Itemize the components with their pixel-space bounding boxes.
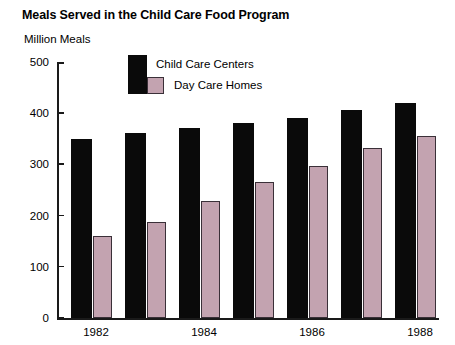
x-tick-label-1988: 1988 (407, 326, 433, 338)
legend-swatch-day-care-homes (147, 77, 164, 94)
bar-day-care-homes-1984 (201, 201, 220, 318)
bar-child-care-centers-1987 (341, 110, 362, 318)
bar-day-care-homes-1985 (255, 182, 274, 318)
bar-child-care-centers-1988 (395, 103, 416, 318)
y-tick-label-200: 200 (30, 210, 49, 222)
bar-child-care-centers-1984 (179, 128, 200, 318)
bar-child-care-centers-1982 (71, 139, 92, 318)
chart-figure: Meals Served in the Child Care Food Prog… (0, 0, 455, 345)
x-tick-label-1984: 1984 (191, 326, 217, 338)
bar-day-care-homes-1987 (363, 148, 382, 318)
x-tick-label-1982: 1982 (83, 326, 109, 338)
legend-swatch-child-care-centers (128, 55, 147, 94)
bar-day-care-homes-1982 (93, 236, 112, 318)
y-tick-label-0: 0 (43, 312, 49, 324)
y-tick-label-500: 500 (30, 56, 49, 68)
x-tick-label-1986: 1986 (299, 326, 325, 338)
y-tick-label-100: 100 (30, 261, 49, 273)
bar-child-care-centers-1986 (287, 118, 308, 318)
bar-day-care-homes-1988 (417, 136, 436, 318)
chart-title: Meals Served in the Child Care Food Prog… (22, 8, 289, 22)
bar-day-care-homes-1986 (309, 166, 328, 318)
bar-day-care-homes-1983 (147, 222, 166, 318)
bar-child-care-centers-1983 (125, 133, 146, 318)
legend-label-child-care-centers: Child Care Centers (156, 58, 254, 70)
y-tick-label-300: 300 (30, 158, 49, 170)
bar-child-care-centers-1985 (233, 123, 254, 318)
y-axis-label: Million Meals (24, 33, 90, 45)
legend-label-day-care-homes: Day Care Homes (174, 79, 262, 91)
y-axis-line (57, 62, 59, 318)
chart-legend: Child Care Centers Day Care Homes (128, 55, 318, 97)
y-tick-label-400: 400 (30, 107, 49, 119)
plot-area: 0 100 200 300 400 500 1982 1984 1986 198… (57, 62, 439, 318)
x-axis-line (57, 318, 439, 320)
